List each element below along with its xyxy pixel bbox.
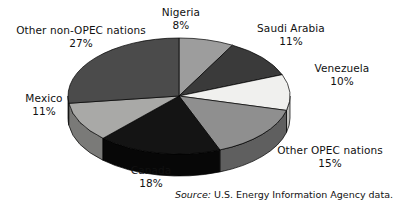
source-text: U.S. Energy Information Agency data. [214, 189, 393, 200]
slice-label-percent: 27% [6, 37, 156, 50]
slice-label-name: Venezuela [292, 62, 392, 75]
slice-label-other-non-opec-nations: Other non-OPEC nations 27% [6, 24, 156, 49]
slice-label-percent: 11% [6, 105, 82, 118]
source-prefix: Source: [175, 189, 211, 200]
slice-label-percent: 18% [106, 177, 196, 190]
slice-label-name: Mexico [6, 92, 82, 105]
slice-label-percent: 11% [236, 35, 346, 48]
slice-label-mexico: Mexico 11% [6, 92, 82, 117]
slice-label-percent: 10% [292, 75, 392, 88]
slice-label-name: Other OPEC nations [264, 144, 396, 157]
slice-label-canada: Canada 18% [106, 164, 196, 189]
slice-label-percent: 15% [264, 157, 396, 170]
source-note: Source: U.S. Energy Information Agency d… [175, 189, 393, 201]
slice-label-other-opec-nations: Other OPEC nations 15% [264, 144, 396, 169]
slice-label-name: Saudi Arabia [236, 22, 346, 35]
pie-chart-figure: Other non-OPEC nations 27% Nigeria 8% Sa… [0, 0, 399, 207]
slice-label-venezuela: Venezuela 10% [292, 62, 392, 87]
slice-label-name: Other non-OPEC nations [6, 24, 156, 37]
slice-label-nigeria: Nigeria 8% [136, 6, 226, 31]
slice-label-name: Canada [106, 164, 196, 177]
slice-label-saudi-arabia: Saudi Arabia 11% [236, 22, 346, 47]
slice-label-name: Nigeria [136, 6, 226, 19]
slice-label-percent: 8% [136, 19, 226, 32]
